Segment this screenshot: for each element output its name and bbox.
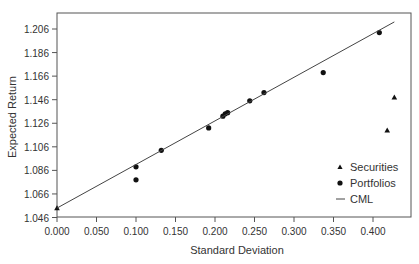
y-tick-label: 1.086 bbox=[24, 165, 49, 176]
legend-label: Securities bbox=[350, 161, 399, 173]
y-tick-label: 1.206 bbox=[24, 24, 49, 35]
portfolio-point bbox=[321, 70, 326, 75]
x-tick-label: 0.050 bbox=[84, 226, 109, 237]
portfolio-point bbox=[133, 177, 138, 182]
security-point bbox=[384, 128, 390, 133]
y-tick-label: 1.126 bbox=[24, 118, 49, 129]
x-tick-label: 0.250 bbox=[242, 226, 267, 237]
legend-label: Portfolios bbox=[350, 177, 396, 189]
x-tick-label: 0.200 bbox=[202, 226, 227, 237]
y-tick-label: 1.146 bbox=[24, 95, 49, 106]
series-cml bbox=[57, 22, 394, 208]
legend-item-cml: CML bbox=[336, 193, 373, 205]
x-axis-ticks: 0.0000.0500.1000.1500.2000.2500.3000.350… bbox=[44, 217, 385, 237]
y-axis-label: Expected Return bbox=[6, 76, 18, 158]
y-tick-label: 1.066 bbox=[24, 189, 49, 200]
cml-line bbox=[57, 22, 394, 208]
legend-item-portfolios: Portfolios bbox=[337, 177, 396, 189]
legend-triangle-icon bbox=[337, 164, 342, 169]
x-axis-label: Standard Deviation bbox=[190, 244, 284, 256]
y-tick-label: 1.186 bbox=[24, 48, 49, 59]
chart-canvas: 1.0461.0661.0861.1061.1261.1461.1661.186… bbox=[0, 0, 419, 264]
x-tick-label: 0.100 bbox=[123, 226, 148, 237]
legend-circle-icon bbox=[337, 180, 342, 185]
x-tick-label: 0.400 bbox=[360, 226, 385, 237]
y-tick-label: 1.106 bbox=[24, 142, 49, 153]
x-tick-label: 0.300 bbox=[281, 226, 306, 237]
y-axis-ticks: 1.0461.0661.0861.1061.1261.1461.1661.186… bbox=[24, 24, 57, 224]
y-tick-label: 1.046 bbox=[24, 213, 49, 224]
security-point bbox=[392, 95, 398, 100]
legend-label: CML bbox=[350, 193, 373, 205]
x-tick-label: 0.350 bbox=[321, 226, 346, 237]
data-series bbox=[54, 22, 397, 210]
legend-item-securities: Securities bbox=[337, 161, 398, 173]
x-tick-label: 0.150 bbox=[163, 226, 188, 237]
cml-scatter-chart: 1.0461.0661.0861.1061.1261.1461.1661.186… bbox=[0, 0, 419, 264]
x-tick-label: 0.000 bbox=[44, 226, 69, 237]
y-tick-label: 1.166 bbox=[24, 71, 49, 82]
series-portfolios bbox=[133, 30, 382, 182]
portfolio-point bbox=[206, 125, 211, 130]
legend: SecuritiesPortfoliosCML bbox=[336, 161, 399, 205]
